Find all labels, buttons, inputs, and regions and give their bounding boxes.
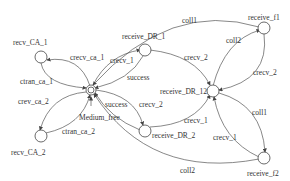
edge-crecv-1-f2 xyxy=(214,97,259,157)
label-medium-free: Medium_free xyxy=(79,113,120,122)
node-receive-f2 xyxy=(258,152,270,164)
label-coll2-f1: coll2 xyxy=(226,36,241,45)
label-receive-f1: receive_f1 xyxy=(248,13,280,22)
node-recv-ca-2 xyxy=(35,130,47,142)
edge-crecv-ca-1 xyxy=(47,59,90,86)
label-receive-f2: receive_f2 xyxy=(247,169,279,178)
label-success-2: success xyxy=(105,100,128,109)
node-recv-ca-1 xyxy=(35,51,47,63)
label-coll1-f2: coll1 xyxy=(252,108,267,117)
label-recv-ca-2: recv_CA_2 xyxy=(11,148,46,157)
label-recv-ca-1: recv_CA_1 xyxy=(13,38,48,47)
label-coll1-medium: coll1 xyxy=(182,16,197,25)
node-receive-dr-2 xyxy=(139,125,151,137)
label-crecv-1-f2: crecv_1 xyxy=(213,133,237,142)
edge-success-2 xyxy=(95,93,140,130)
label-ctran-ca-2: ctran_ca_2 xyxy=(62,127,95,136)
label-receive-dr-2: receive_DR_2 xyxy=(152,131,196,140)
label-crecv-ca-1: crecv_ca_1 xyxy=(70,53,104,62)
edge-coll1-f2 xyxy=(219,93,265,152)
node-receive-f1 xyxy=(258,22,270,34)
label-coll2-medium: coll2 xyxy=(180,166,195,175)
diagram-svg: recv_CA_1 recv_CA_2 receive_DR_1 receive… xyxy=(0,0,290,181)
label-crecv-1-dr12: crecv_1 xyxy=(184,116,208,125)
label-crecv-2: crecv_2 xyxy=(139,100,163,109)
label-receive-dr-1: receive_DR_1 xyxy=(122,32,166,41)
label-success-1: success xyxy=(127,73,150,82)
label-ctran-ca-1: ctran_ca_1 xyxy=(20,77,53,86)
node-medium-free-inner xyxy=(88,87,94,93)
node-receive-dr-1 xyxy=(139,44,151,56)
label-receive-dr-12: receive_DR_12 xyxy=(160,87,207,96)
state-diagram: recv_CA_1 recv_CA_2 receive_DR_1 receive… xyxy=(0,0,290,181)
edge-coll1-medium xyxy=(93,20,259,85)
label-crev-ca-2: crev_ca_2 xyxy=(18,97,49,106)
label-crecv-2-f1: crecv_2 xyxy=(253,68,277,77)
label-crecv-1: crecv_1 xyxy=(110,56,134,65)
node-receive-dr-12 xyxy=(207,85,219,97)
label-crecv-2-dr12: crecv_2 xyxy=(184,53,208,62)
